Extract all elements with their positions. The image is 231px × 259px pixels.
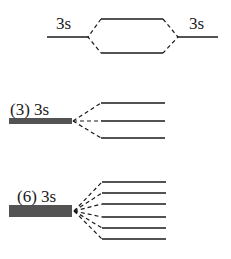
hexamer-label: (6) 3s (17, 187, 56, 206)
panel-trimer: (3) 3s (9, 100, 165, 138)
right-correlation-lines (163, 19, 178, 53)
degenerate-bar-6 (9, 206, 72, 216)
right-3s-label: 3s (189, 14, 204, 33)
trimer-correlation-lines (73, 103, 101, 138)
mo-splitting-diagram: 3s 3s (3) 3s (6) 3s (0, 0, 231, 259)
degenerate-bar-3 (9, 119, 72, 123)
hexamer-correlation-lines (74, 182, 102, 239)
trimer-label: (3) 3s (10, 100, 49, 119)
panel-hexamer: (6) 3s (9, 182, 166, 239)
panel-dimer: 3s 3s (47, 14, 218, 53)
left-3s-label: 3s (56, 14, 71, 33)
left-correlation-lines (88, 19, 101, 53)
